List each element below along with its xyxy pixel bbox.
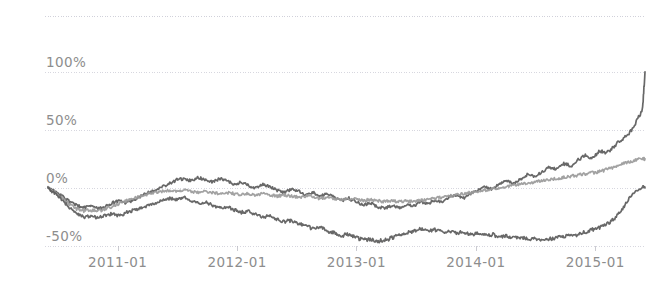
- y-axis-tick-label: 0%: [46, 170, 68, 186]
- x-axis-tick-label: 2011-01: [88, 254, 147, 270]
- y-axis-tick-label: -50%: [46, 228, 82, 244]
- y-axis-tick-label: 50%: [46, 112, 77, 128]
- x-axis-tick-label: 2012-01: [207, 254, 266, 270]
- chart-container: 100%50%0%-50% 2011-012012-012013-012014-…: [0, 0, 665, 301]
- x-axis-tick-label: 2013-01: [327, 254, 386, 270]
- line-chart: 100%50%0%-50% 2011-012012-012013-012014-…: [0, 0, 665, 301]
- x-axis-tick-label: 2015-01: [566, 254, 625, 270]
- y-axis-tick-label: 100%: [46, 54, 86, 70]
- x-axis-tick-label: 2014-01: [446, 254, 505, 270]
